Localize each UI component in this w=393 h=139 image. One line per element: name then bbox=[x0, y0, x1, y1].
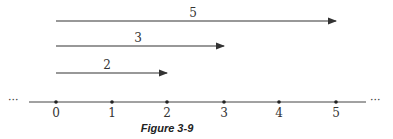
arrow-2: 2 bbox=[56, 58, 167, 73]
arrow-5-label: 5 bbox=[189, 6, 197, 20]
ellipsis-right: ··· bbox=[370, 94, 381, 107]
arrow-3: 3 bbox=[56, 31, 224, 46]
tick-label-1: 1 bbox=[108, 106, 116, 120]
tick-label-5: 5 bbox=[332, 106, 340, 120]
arrow-3-label: 3 bbox=[134, 31, 142, 45]
figure-caption: Figure 3-9 bbox=[141, 122, 194, 134]
number-line-diagram: 5 3 2 ··· ··· 0 1 2 3 4 5 Figure 3-9 bbox=[0, 0, 393, 139]
ellipsis-left: ··· bbox=[8, 94, 19, 107]
tick-label-0: 0 bbox=[52, 106, 60, 120]
tick-label-3: 3 bbox=[220, 106, 228, 120]
arrow-2-label: 2 bbox=[103, 58, 111, 72]
tick-label-2: 2 bbox=[163, 106, 171, 120]
number-line: ··· ··· 0 1 2 3 4 5 bbox=[8, 94, 381, 120]
arrow-5: 5 bbox=[56, 6, 336, 21]
tick-label-4: 4 bbox=[275, 106, 283, 120]
